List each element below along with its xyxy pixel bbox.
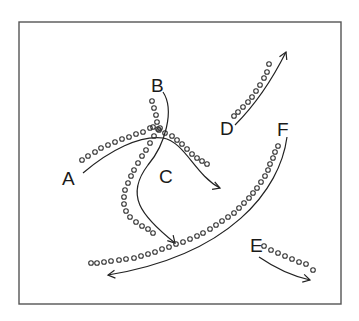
trail-dot [241, 105, 246, 110]
trajectory-paths [83, 52, 310, 282]
trail-dot [232, 211, 237, 216]
trail-dot [267, 62, 272, 67]
trail-dot [297, 260, 302, 265]
trail-dot [254, 89, 259, 94]
motion-diagram: ABCDEF [0, 0, 359, 321]
trail-dot [93, 150, 98, 155]
trail-dot [200, 159, 205, 164]
trajectory-d [235, 52, 286, 125]
trail-dot [246, 100, 251, 105]
trail-dot [188, 237, 193, 242]
trail-dot [160, 247, 165, 252]
trail-dot [146, 252, 151, 257]
trail-dot [220, 219, 225, 224]
label-a: A [62, 168, 75, 189]
trail-dot [258, 83, 263, 88]
trail-dot [181, 240, 186, 245]
trail-dot [273, 150, 278, 155]
trail-dot [155, 120, 160, 125]
dot-trail-e-dots [262, 244, 316, 273]
trail-dot [276, 251, 281, 256]
trail-dot [180, 142, 185, 147]
trail-dot [124, 209, 129, 214]
trail-dot [250, 95, 255, 100]
trail-dot [132, 168, 137, 173]
dot-trail-d-dots [232, 62, 272, 119]
trail-dot [129, 174, 134, 179]
trail-dot [123, 188, 128, 193]
label-d: D [220, 118, 234, 139]
trail-dot [95, 261, 100, 266]
trail-dot [102, 260, 107, 265]
trail-dot [185, 147, 190, 152]
trail-dot [266, 168, 271, 173]
trail-dot [80, 158, 85, 163]
trail-dot [126, 181, 131, 186]
trail-dot [195, 234, 200, 239]
trail-dot [263, 174, 268, 179]
trail-dot [140, 154, 145, 159]
trail-dot [283, 254, 288, 259]
trail-dot [152, 106, 157, 111]
trail-dot [167, 245, 172, 250]
trail-dot [271, 156, 276, 161]
trail-dot [208, 227, 213, 232]
trail-dot [89, 261, 94, 266]
trail-dot [86, 154, 91, 159]
trail-dot [174, 242, 179, 247]
trail-dot [120, 137, 125, 142]
trail-dot [190, 152, 195, 157]
trail-dot [201, 231, 206, 236]
trail-dot [132, 256, 137, 261]
trail-dot [124, 257, 129, 262]
trail-dot [236, 110, 241, 115]
trail-dot [170, 134, 175, 139]
trail-dot [139, 254, 144, 259]
trail-dot [205, 162, 210, 167]
trail-dot [269, 248, 274, 253]
trail-dot [226, 215, 231, 220]
trail-dot [154, 113, 159, 118]
trail-dot [99, 146, 104, 151]
trail-dot [175, 138, 180, 143]
trajectory-e [259, 257, 310, 280]
trail-dot [251, 191, 256, 196]
trail-dot [151, 231, 156, 236]
trail-dot [106, 143, 111, 148]
trail-dot [146, 227, 151, 232]
label-c: C [159, 166, 173, 187]
trail-dot [262, 76, 267, 81]
dot-trail-ac-dots [156, 127, 210, 167]
trail-dot [117, 258, 122, 263]
trail-dot [242, 201, 247, 206]
trail-dot [127, 135, 132, 140]
trail-dot [268, 162, 273, 167]
trail-dot [311, 268, 316, 273]
trail-dot [148, 126, 153, 131]
trail-dot [113, 140, 118, 145]
dot-trails [80, 62, 316, 273]
trail-dot [214, 223, 219, 228]
label-b: B [151, 75, 164, 96]
trail-dot [237, 206, 242, 211]
trail-dot [136, 161, 141, 166]
trail-dot [247, 196, 252, 201]
trail-dot [128, 215, 133, 220]
trail-dot [134, 132, 139, 137]
trail-dot [265, 70, 270, 75]
trail-dot [290, 257, 295, 262]
trail-dot [134, 220, 139, 225]
dot-trail-b-dots [122, 99, 163, 236]
trail-dot [276, 144, 281, 149]
trail-dot [109, 259, 114, 264]
trail-dot [195, 156, 200, 161]
trail-dot [151, 125, 156, 130]
trail-dot [150, 99, 155, 104]
trail-dot [259, 180, 264, 185]
trail-dot [122, 195, 127, 200]
label-f: F [277, 119, 289, 140]
trail-dot [255, 186, 260, 191]
trail-dot [304, 262, 309, 267]
label-e: E [250, 235, 263, 256]
trail-dot [122, 202, 127, 207]
